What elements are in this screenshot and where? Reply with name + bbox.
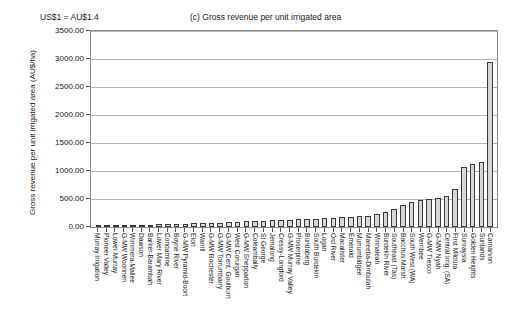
bar — [235, 222, 241, 227]
bar — [322, 218, 328, 227]
x-label-slot: Boyne River — [172, 233, 181, 320]
bar — [365, 216, 371, 227]
x-tick-label: Coleambally — [251, 233, 258, 269]
x-tick-mark — [237, 228, 238, 232]
x-tick-label: Murray Irrigation — [94, 233, 101, 281]
x-label-slot: West Corurgan — [233, 233, 242, 320]
x-tick-mark — [420, 228, 421, 232]
bar — [252, 221, 258, 227]
x-label-slot: Murray Irrigation — [93, 233, 102, 320]
chart-page: US$1 = AU$1.4 (c) Gross revenue per unit… — [0, 0, 519, 320]
x-tick-mark — [472, 228, 473, 232]
x-tick-label: Jemalong — [269, 233, 276, 262]
bar — [244, 221, 250, 227]
x-label-slot: Pioneer Valley — [102, 233, 111, 320]
x-tick-mark — [167, 228, 168, 232]
x-tick-label: First Mildura — [452, 233, 459, 269]
bar — [183, 224, 189, 227]
bar-slot — [172, 31, 181, 227]
bar-slot — [390, 31, 399, 227]
bar-slot — [198, 31, 207, 227]
x-tick-mark — [263, 228, 264, 232]
x-tick-mark — [132, 228, 133, 232]
bar-slot — [268, 31, 277, 227]
bar — [122, 225, 128, 227]
x-tick-label: Sunraysia — [461, 233, 468, 262]
x-label-slot: Sunlands — [477, 233, 486, 320]
x-tick-mark — [123, 228, 124, 232]
y-axis-title: Gross revenue per unit irrigated area (A… — [28, 33, 37, 233]
x-tick-mark — [272, 228, 273, 232]
x-tick-label: Dawson — [138, 233, 145, 257]
bar-slot — [155, 31, 164, 227]
x-label-slot: Warrill — [198, 233, 207, 320]
bar — [391, 209, 397, 227]
bar-slot — [486, 31, 495, 227]
x-tick-mark — [376, 228, 377, 232]
bar-slot — [285, 31, 294, 227]
x-tick-mark — [141, 228, 142, 232]
x-tick-mark — [210, 228, 211, 232]
x-label-slot: Wimmera-Mallee — [128, 233, 137, 320]
bar-slot — [346, 31, 355, 227]
bar — [470, 164, 476, 227]
bar — [339, 217, 345, 227]
bar-slot — [251, 31, 260, 227]
bar — [200, 223, 206, 227]
x-label-slot: Carnarvon — [486, 233, 495, 320]
x-tick-mark — [219, 228, 220, 232]
bar-slot — [355, 31, 364, 227]
y-tick-mark — [86, 114, 90, 115]
bar — [96, 225, 102, 227]
x-tick-label: Eton — [190, 233, 197, 247]
x-label-slot: Eton — [189, 233, 198, 320]
x-label-slot: First Mildura — [451, 233, 460, 320]
bar — [304, 219, 310, 227]
x-tick-label: G-MW Cent. Goulburn — [225, 233, 232, 299]
x-tick-mark — [368, 228, 369, 232]
x-label-slot: G-MW Tresco — [425, 233, 434, 320]
y-tick-label: 1000.00 — [24, 166, 84, 175]
x-tick-mark — [114, 228, 115, 232]
x-tick-mark — [455, 228, 456, 232]
bar-slot — [468, 31, 477, 227]
x-tick-mark — [280, 228, 281, 232]
bar — [165, 224, 171, 227]
bar — [278, 220, 284, 227]
x-tick-label: G-MW Shepparton — [243, 233, 250, 288]
x-tick-label: Bundaberg — [304, 233, 311, 265]
bar-slot — [329, 31, 338, 227]
x-tick-mark — [350, 228, 351, 232]
bar — [444, 196, 450, 227]
bar — [191, 223, 197, 227]
x-tick-label: Bacchus Marsh — [400, 233, 407, 278]
bar-slot — [433, 31, 442, 227]
x-label-slot: Condamine — [163, 233, 172, 320]
x-tick-label: Pioneer Valley — [103, 233, 110, 275]
x-tick-mark — [315, 228, 316, 232]
x-label-slot: Macalister — [338, 233, 347, 320]
x-tick-label: Warrill — [199, 233, 206, 251]
x-label-slot: G-MW Shepparton — [241, 233, 250, 320]
bar-slot — [364, 31, 373, 227]
bar — [270, 220, 276, 227]
bar — [374, 214, 380, 227]
x-tick-mark — [429, 228, 430, 232]
bar — [348, 217, 354, 227]
x-tick-mark — [106, 228, 107, 232]
x-tick-mark — [403, 228, 404, 232]
x-label-slot: G-MW Nyah — [434, 233, 443, 320]
x-label-slot: Bundaberg — [303, 233, 312, 320]
bar-series — [91, 31, 497, 227]
bar — [156, 224, 162, 227]
x-tick-mark — [202, 228, 203, 232]
bar — [296, 219, 302, 227]
bar-slot — [120, 31, 129, 227]
x-tick-label: Werribee — [417, 233, 424, 260]
bar — [113, 225, 119, 227]
x-tick-label: G-MW Torrumbarry — [216, 233, 223, 289]
x-label-slot: G-MW Rochester — [207, 233, 216, 320]
y-tick-mark — [86, 198, 90, 199]
bar — [130, 225, 136, 227]
x-tick-label: Boyne River — [173, 233, 180, 269]
